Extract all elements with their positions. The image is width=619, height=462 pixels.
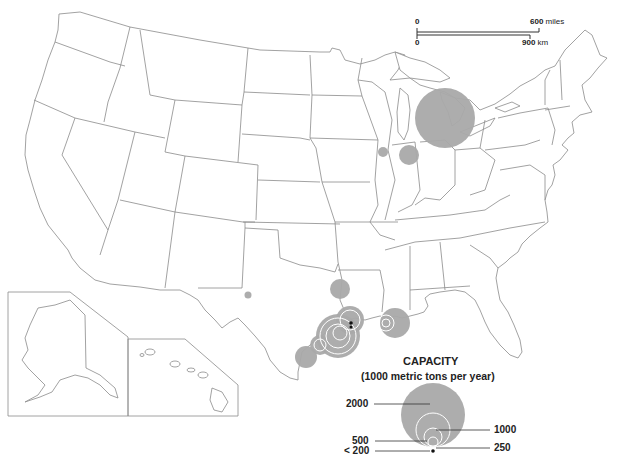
legend-label-2000: 2000 — [346, 398, 368, 409]
legend-title: CAPACITY — [403, 355, 458, 367]
alaska-outline — [22, 300, 118, 402]
scale-km-start: 0 — [415, 38, 419, 47]
legend-circles — [374, 383, 490, 453]
bubble-louisiana — [380, 308, 410, 338]
scale-miles-start: 0 — [415, 17, 419, 26]
legend-label-under-200: < 200 — [344, 445, 369, 456]
bubble-iowa-illinois — [378, 147, 388, 157]
legend-subtitle: (1000 metric tons per year) — [361, 370, 495, 382]
scale-miles-end: 600 miles — [530, 17, 564, 26]
hawaii-islands — [140, 349, 228, 412]
scale-bar — [417, 28, 539, 39]
us-map — [0, 0, 619, 462]
scale-km-end: 900 km — [522, 38, 548, 47]
bubble-east-texas — [330, 279, 350, 299]
lake-superior — [395, 52, 450, 82]
legend-label-1000: 1000 — [494, 424, 516, 435]
bubble-chicago — [399, 145, 419, 165]
legend-label-250: 250 — [494, 442, 511, 453]
bubble-west-texas — [245, 292, 252, 299]
bubble-michigan — [415, 88, 475, 148]
